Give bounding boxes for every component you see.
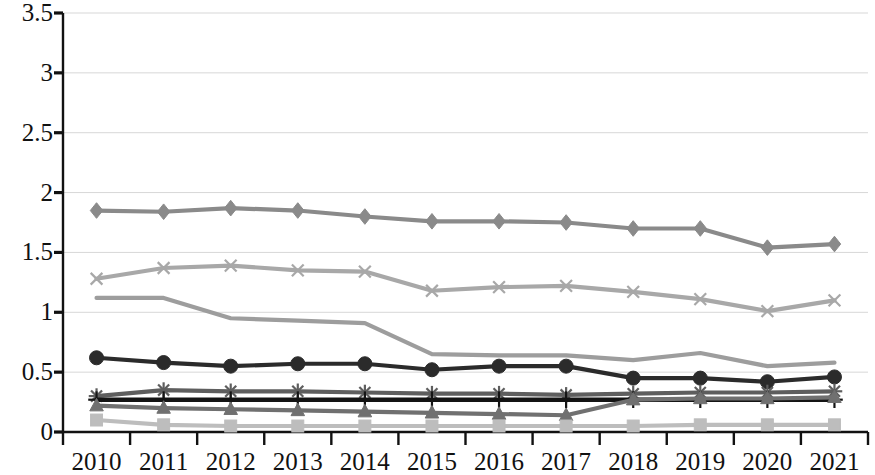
series-line (97, 358, 835, 382)
data-point-marker (292, 420, 304, 432)
data-point-marker (426, 214, 438, 230)
y-axis-tick-label: 2 (41, 180, 54, 205)
data-point-marker (359, 420, 371, 432)
data-point-marker (157, 204, 169, 220)
data-point-marker (224, 200, 236, 216)
y-axis-tick-label: 3.5 (22, 0, 53, 25)
data-point-marker (627, 420, 639, 432)
data-point-marker (91, 414, 103, 426)
data-point-marker (225, 420, 237, 432)
data-point-marker (560, 215, 572, 231)
data-point-marker (560, 420, 572, 432)
data-point-marker (492, 359, 506, 373)
x-axis-tick-label: 2021 (801, 449, 868, 474)
data-point-marker (493, 420, 505, 432)
x-axis-tick-label: 2019 (667, 449, 734, 474)
data-point-marker (828, 419, 840, 431)
x-axis-tick-label: 2018 (600, 449, 667, 474)
y-axis-ticks (54, 13, 63, 432)
x-axis-tick-label: 2012 (197, 449, 264, 474)
data-point-marker (559, 359, 573, 373)
line-chart: 00.511.522.533.5 20102011201220132014201… (0, 0, 875, 475)
series-line (97, 390, 835, 396)
data-point-marker (693, 371, 707, 385)
data-point-marker (425, 363, 439, 377)
data-point-marker (627, 221, 639, 237)
data-point-marker (291, 357, 305, 371)
y-axis-tick-label: 1 (41, 299, 54, 324)
y-axis-tick-label: 2.5 (22, 120, 53, 145)
x-axis-tick-label: 2020 (734, 449, 801, 474)
data-series-group (88, 200, 843, 432)
x-axis-tick-label: 2011 (130, 449, 197, 474)
series-line (97, 298, 835, 366)
data-series (91, 414, 841, 432)
data-point-marker (158, 419, 170, 431)
data-point-marker (292, 203, 304, 219)
series-line (97, 266, 835, 311)
data-point-marker (827, 370, 841, 384)
y-axis-tick-label: 3 (41, 60, 54, 85)
data-point-marker (761, 240, 773, 256)
data-point-marker (828, 236, 840, 252)
y-axis-tick-label: 1.5 (22, 239, 53, 264)
x-axis-tick-label: 2016 (466, 449, 533, 474)
data-point-marker (359, 209, 371, 225)
y-axis-tick-label: 0 (41, 419, 54, 444)
data-point-marker (426, 420, 438, 432)
data-point-marker (90, 203, 102, 219)
data-series (97, 298, 835, 366)
data-point-marker (157, 356, 171, 370)
x-axis-tick-label: 2013 (264, 449, 331, 474)
data-point-marker (358, 357, 372, 371)
x-axis-tick-label: 2010 (63, 449, 130, 474)
data-point-marker (90, 351, 104, 365)
data-point-marker (224, 359, 238, 373)
data-point-marker (694, 221, 706, 237)
data-point-marker (626, 371, 640, 385)
x-axis-tick-label: 2014 (331, 449, 398, 474)
x-axis-ticks (63, 432, 868, 445)
data-point-marker (761, 419, 773, 431)
series-line (97, 208, 835, 248)
x-axis-tick-label: 2015 (398, 449, 465, 474)
series-line (97, 420, 835, 426)
y-axis-tick-label: 0.5 (22, 359, 53, 384)
data-point-marker (493, 214, 505, 230)
data-point-marker (694, 419, 706, 431)
x-axis-tick-label: 2017 (533, 449, 600, 474)
data-series (90, 200, 840, 255)
chart-plot-area (0, 0, 875, 475)
